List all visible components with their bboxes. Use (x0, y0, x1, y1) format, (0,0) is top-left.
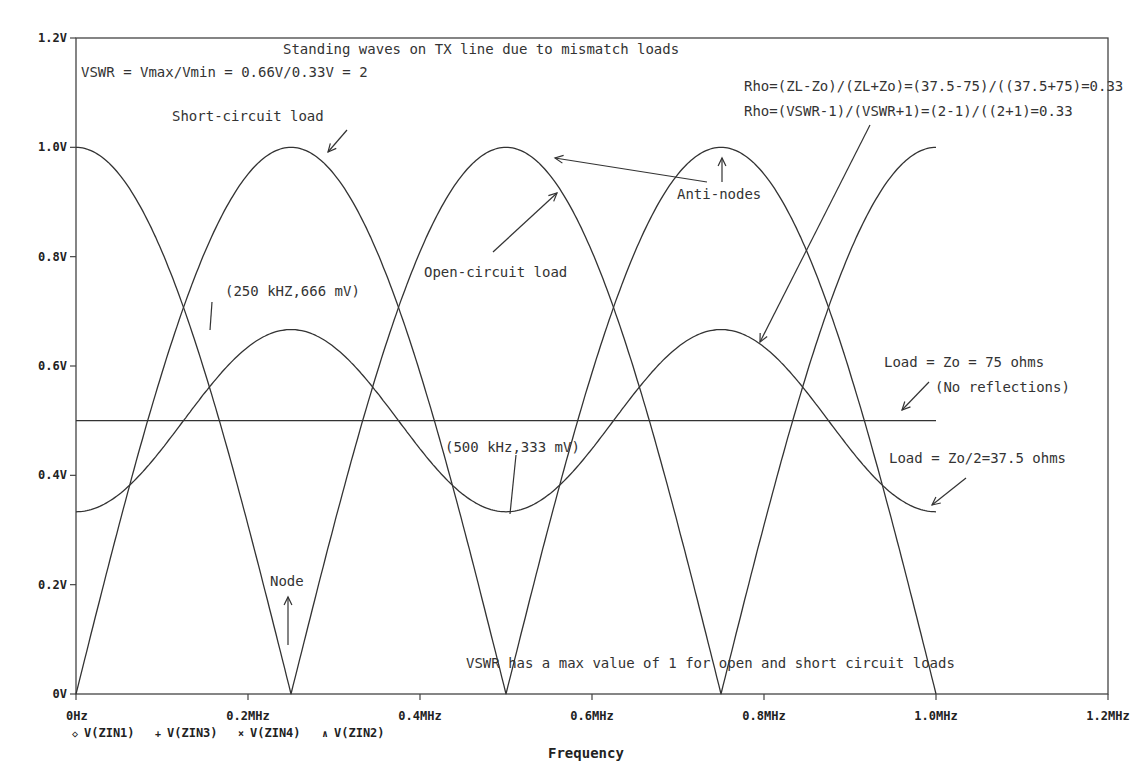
x-tick-label: 0.8MHz (742, 709, 785, 723)
legend-symbol-zin3: + (155, 728, 161, 739)
y-tick-label: 0.2V (38, 578, 67, 592)
min-point-pointer (510, 455, 516, 514)
node-label: Node (270, 573, 304, 589)
legend-label-zin1: V(ZIN1) (84, 726, 135, 740)
rho-arrow (760, 125, 870, 342)
no-reflections-label: (No reflections) (935, 379, 1070, 395)
x-tick-label: 1.0MHz (914, 709, 957, 723)
peak-point-label: (250 kHZ,666 mV) (225, 283, 360, 299)
x-tick-label: 0Hz (66, 709, 88, 723)
vswr-note: VSWR has a max value of 1 for open and s… (466, 655, 955, 671)
rho-formula-1: Rho=(ZL-Zo)/(ZL+Zo)=(37.5-75)/((37.5+75)… (744, 78, 1123, 94)
legend-label-zin2: V(ZIN2) (334, 726, 385, 740)
legend: ◇ V(ZIN1) + V(ZIN3) × V(ZIN4) ∧ V(ZIN2) (72, 726, 385, 740)
y-tick-label: 0.6V (38, 359, 67, 373)
y-tick-label: 0V (53, 687, 67, 701)
anti-nodes-label: Anti-nodes (677, 186, 761, 202)
matched-load-label: Load = Zo = 75 ohms (884, 354, 1044, 370)
legend-label-zin4: V(ZIN4) (250, 726, 301, 740)
legend-symbol-zin2: ∧ (322, 728, 328, 739)
x-tick-label: 0.6MHz (570, 709, 613, 723)
legend-symbol-zin1: ◇ (72, 728, 78, 739)
y-tick-label: 0.4V (38, 468, 67, 482)
legend-label-zin3: V(ZIN3) (167, 726, 218, 740)
x-tick-label: 0.2MHz (226, 709, 269, 723)
half-load-label: Load = Zo/2=37.5 ohms (889, 450, 1066, 466)
short-circuit-arrow (328, 130, 347, 152)
x-tick-label: 0.4MHz (398, 709, 441, 723)
y-tick-label: 0.8V (38, 250, 67, 264)
rho-formula-2: Rho=(VSWR-1)/(VSWR+1)=(2-1)/((2+1)=0.33 (744, 103, 1073, 119)
min-point-label: (500 kHz,333 mV) (445, 439, 580, 455)
half-load-arrow (932, 478, 966, 505)
open-circuit-arrow (493, 193, 557, 252)
chart-title: Standing waves on TX line due to mismatc… (283, 41, 679, 57)
chart: 0V0.2V0.4V0.6V0.8V1.0V1.2V 0Hz0.2MHz0.4M… (0, 0, 1144, 776)
legend-symbol-zin4: × (238, 728, 244, 739)
matched-load-arrow (902, 382, 929, 410)
short-circuit-label: Short-circuit load (172, 108, 324, 124)
vswr-annotation: VSWR = Vmax/Vmin = 0.66V/0.33V = 2 (81, 64, 368, 80)
y-tick-label: 1.2V (38, 31, 67, 45)
y-tick-label: 1.0V (38, 140, 67, 154)
x-axis-title: Frequency (548, 745, 624, 761)
peak-point-pointer (210, 302, 212, 330)
anti-node-arrow-1 (555, 158, 707, 182)
x-tick-label: 1.2MHz (1086, 709, 1129, 723)
y-axis-ticks: 0V0.2V0.4V0.6V0.8V1.0V1.2V (38, 31, 76, 701)
curves (76, 147, 936, 694)
x-axis-ticks: 0Hz0.2MHz0.4MHz0.6MHz0.8MHz1.0MHz1.2MHz (66, 694, 1130, 723)
open-circuit-label: Open-circuit load (424, 264, 567, 280)
